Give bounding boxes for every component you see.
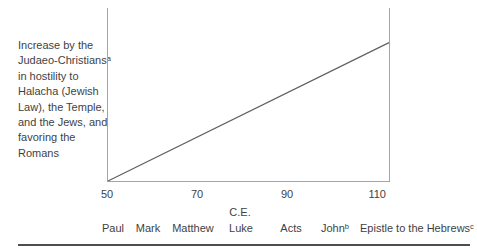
writing-label: Johnᵇ: [321, 222, 349, 234]
figure-bottom-rule: [18, 244, 470, 246]
trend-line-svg: [108, 8, 389, 181]
writing-label: Matthew: [172, 222, 214, 234]
writing-label: Epistle to the Hebrewsᶜ: [360, 222, 474, 234]
writing-label: Luke: [229, 222, 253, 234]
chart-area: [107, 8, 390, 182]
x-tick-label: 50: [101, 188, 113, 200]
trend-line: [108, 43, 389, 181]
writings-row: PaulMarkMatthewLukeActsJohnᵇEpistle to t…: [107, 222, 472, 236]
writing-label: Acts: [280, 222, 301, 234]
y-axis-description: Increase by the Judaeo-Christiansᵃ in ho…: [18, 38, 111, 161]
figure: Increase by the Judaeo-Christiansᵃ in ho…: [0, 0, 477, 251]
x-tick-label: 70: [191, 188, 203, 200]
x-axis-title: C.E.: [229, 206, 250, 218]
writing-label: Paul: [102, 222, 124, 234]
x-tick-label: 90: [281, 188, 293, 200]
writing-label: Mark: [136, 222, 160, 234]
x-tick-label: 110: [368, 188, 386, 200]
x-axis-tick-row: 507090110: [107, 188, 388, 202]
